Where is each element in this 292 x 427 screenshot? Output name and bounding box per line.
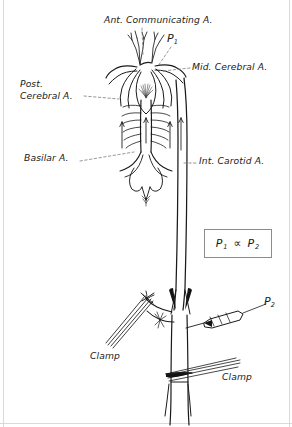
internal-carotid-medial-wall [174,80,178,310]
basilar-artery-left-wall [141,100,142,152]
label-clamp-upper: Clamp [90,350,120,361]
label-p2: P2 [264,296,275,311]
label-p1-subscript: 1 [174,38,178,46]
cannula [186,304,266,328]
label-mid-cerebral-artery: Mid. Cerebral A. [192,61,267,72]
anatomical-figure: Ant. Communicating A. P1 Mid. Cerebral A… [0,0,292,427]
label-post-cerebral-line1: Post. [20,78,43,89]
equation-p1: P1 [216,237,229,251]
label-clamp-lower: Clamp [222,371,252,382]
flow-arrows [120,118,172,148]
internal-carotid-lateral-wall [183,78,187,310]
label-p1: P1 [167,33,178,48]
label-p1-letter: P [167,32,174,45]
proportionality-equation-box: P1 ∝ P2 [204,229,272,258]
label-basilar-artery: Basilar A. [24,152,69,163]
label-p2-letter: P [264,295,271,308]
label-int-carotid-artery: Int. Carotid A. [199,155,264,166]
equation-p2: P2 [247,237,260,251]
label-ant-communicating-artery: Ant. Communicating A. [104,14,213,25]
label-p2-subscript: 2 [271,301,275,309]
anterior-communicating-artery [140,62,152,65]
clamp-upper [106,293,154,348]
label-post-cerebral-line2: Cerebral A. [20,90,73,101]
anterior-cerebral-arteries [128,31,164,64]
basilar-artery-right-wall [151,100,152,152]
label-post-cerebral-artery: Post. Cerebral A. [20,78,92,101]
equation-operator: ∝ [234,237,243,250]
